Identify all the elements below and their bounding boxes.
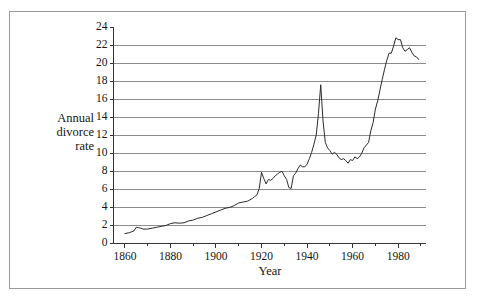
x-tick-label: 1900 <box>191 250 241 262</box>
y-tick-label: 14 <box>72 110 108 122</box>
x-tick-label: 1920 <box>237 250 287 262</box>
y-tick-label: 12 <box>72 128 108 140</box>
y-tick-label: 0 <box>72 236 108 248</box>
y-tick-label: 24 <box>72 20 108 32</box>
y-tick-label: 6 <box>72 182 108 194</box>
y-tick-label: 16 <box>72 92 108 104</box>
y-tick-label: 22 <box>72 38 108 50</box>
x-tick-label: 1960 <box>328 250 378 262</box>
y-tick-label: 8 <box>72 164 108 176</box>
y-tick-label: 10 <box>72 146 108 158</box>
x-tick-label: 1860 <box>100 250 150 262</box>
gridlines <box>114 45 426 225</box>
x-tick-label: 1940 <box>282 250 332 262</box>
divorce-rate-chart: Annual divorce rate Year 024681012141618… <box>0 0 478 299</box>
y-axis-ticks <box>110 27 114 244</box>
y-tick-label: 20 <box>72 56 108 68</box>
x-axis-ticks <box>125 244 421 248</box>
x-tick-label: 1980 <box>373 250 423 262</box>
y-tick-label: 18 <box>72 74 108 86</box>
y-tick-label: 4 <box>72 200 108 212</box>
x-tick-label: 1880 <box>145 250 195 262</box>
y-tick-label: 2 <box>72 218 108 230</box>
